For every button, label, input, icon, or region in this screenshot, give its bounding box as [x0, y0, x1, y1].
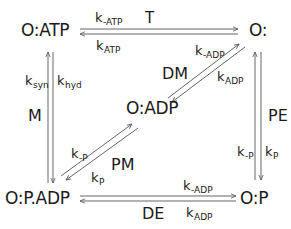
transition-label-PE: PE: [268, 108, 288, 124]
node-o-adp: O:ADP: [126, 100, 178, 117]
rate-DM-reverse: kADP: [217, 70, 244, 83]
transition-label-T: T: [145, 11, 154, 26]
node-o-atp: O:ATP: [21, 22, 69, 39]
rate-M-forward: khyd: [57, 74, 82, 87]
kinetic-scheme-diagram: O:ATP O: O:ADP O:P.ADP O:P k-ATP T kATP …: [0, 0, 291, 229]
node-o: O:: [249, 22, 267, 39]
rate-T-forward: k-ATP: [95, 11, 122, 24]
rate-PM-forward: k-P: [71, 147, 88, 160]
transition-label-DM: DM: [162, 66, 188, 82]
rate-PE-reverse: k-P: [237, 145, 254, 158]
transition-label-DE: DE: [142, 206, 164, 222]
rate-M-reverse: ksyn: [25, 74, 49, 87]
rate-T-reverse: kATP: [96, 39, 120, 52]
rate-DE-forward: k-ADP: [183, 179, 213, 192]
rate-DE-reverse: kADP: [186, 206, 213, 219]
rate-PE-forward: kP: [265, 145, 278, 158]
rate-DM-forward: k-ADP: [195, 44, 225, 57]
node-o-p: O:P: [240, 190, 268, 207]
node-o-p-adp: O:P.ADP: [5, 190, 70, 207]
rate-PM-reverse: kP: [91, 171, 104, 184]
transition-label-PM: PM: [111, 157, 134, 173]
transition-label-M: M: [28, 108, 42, 124]
